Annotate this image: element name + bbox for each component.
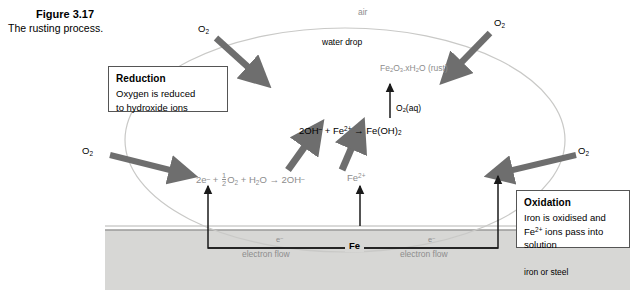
oxidation-line2: Fe2+ ions pass into bbox=[524, 226, 603, 237]
one-half-fraction: 12 bbox=[222, 172, 226, 188]
oxygen-arrow-right bbox=[500, 155, 576, 173]
reduction-line2: to hydroxide ions bbox=[116, 102, 188, 113]
reduction-line1: Oxygen is reduced bbox=[116, 88, 195, 99]
hydroxide-feed-arrow-right bbox=[342, 135, 357, 170]
oxidation-line1: Iron is oxidised and bbox=[524, 212, 606, 223]
iron-or-steel-label: iron or steel bbox=[524, 268, 568, 278]
iron-metal-label: Fe bbox=[345, 241, 364, 252]
oxygen-arrow-top-right bbox=[452, 33, 490, 72]
electron-symbol-right: e– bbox=[428, 236, 435, 245]
reduction-callout: Reduction Oxygen is reduced to hydroxide… bbox=[108, 66, 228, 112]
oxygen-label-top-right: O2 bbox=[494, 18, 505, 29]
oxidation-title: Oxidation bbox=[524, 196, 622, 210]
electron-flow-label-right: electron flow bbox=[400, 250, 448, 260]
figure-rusting-process: Figure 3.17 The rusting process. bbox=[0, 0, 634, 297]
electron-flow-label-left: electron flow bbox=[242, 250, 290, 260]
water-droplet bbox=[125, 28, 565, 252]
cathode-equation: 2e– + 12O2 + H2O → 2OH– bbox=[196, 172, 305, 188]
water-drop-label: water drop bbox=[322, 38, 362, 48]
oxygen-label-left: O2 bbox=[82, 146, 93, 157]
oxygen-arrow-left bbox=[110, 155, 182, 173]
electron-symbol-left: e– bbox=[276, 236, 283, 245]
ferrous-ion-label: Fe2+ bbox=[347, 172, 365, 184]
hydroxide-feed-arrow-left bbox=[288, 135, 313, 170]
reduction-title: Reduction bbox=[116, 72, 220, 86]
hydroxide-equation: 2OH– + Fe2+ → Fe(OH)2 bbox=[299, 125, 401, 137]
oxygen-label-top-left: O2 bbox=[198, 24, 209, 35]
oxidation-callout: Oxidation Iron is oxidised and Fe2+ ions… bbox=[516, 190, 630, 248]
oxygen-aqueous-label: O2(aq) bbox=[396, 104, 421, 114]
diagram-canvas bbox=[0, 0, 634, 297]
air-label: air bbox=[358, 8, 367, 18]
oxidation-line3: solution bbox=[524, 239, 557, 250]
oxygen-label-right: O2 bbox=[578, 146, 589, 157]
rust-formula-label: Fe2O3.xH2O (rust) bbox=[380, 64, 448, 74]
